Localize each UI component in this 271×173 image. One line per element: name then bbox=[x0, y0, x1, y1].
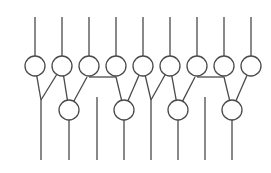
top-node-3 bbox=[79, 56, 99, 76]
junction-wire bbox=[37, 76, 41, 100]
bottom-node-4 bbox=[222, 100, 242, 120]
top-node-9 bbox=[241, 56, 261, 76]
top-node-7 bbox=[187, 56, 207, 76]
junction-wire bbox=[41, 75, 57, 100]
bottom-node-1 bbox=[59, 100, 79, 120]
top-node-4 bbox=[106, 56, 126, 76]
diagonal-wire bbox=[64, 76, 68, 100]
diagonal-wire bbox=[172, 76, 176, 100]
top-node-8 bbox=[214, 56, 234, 76]
network-diagram bbox=[0, 0, 271, 173]
top-node-6 bbox=[160, 56, 180, 76]
top-node-5 bbox=[133, 56, 153, 76]
diagonal-wire bbox=[183, 77, 195, 101]
diagonal-wire bbox=[116, 77, 122, 100]
diagonal-wire bbox=[224, 77, 230, 100]
diagonal-wire bbox=[236, 75, 247, 101]
diagonal-wire bbox=[74, 77, 87, 101]
top-node-1 bbox=[25, 56, 45, 76]
diagonal-wire bbox=[128, 75, 139, 101]
junction-wire bbox=[145, 76, 151, 100]
top-node-2 bbox=[52, 56, 72, 76]
bottom-node-3 bbox=[168, 100, 188, 120]
junction-wire bbox=[151, 75, 165, 100]
bottom-node-2 bbox=[114, 100, 134, 120]
